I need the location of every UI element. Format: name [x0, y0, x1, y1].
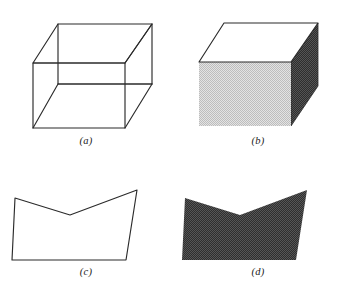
figure-panel-d: (d) — [172, 168, 344, 293]
cube-edge-back-hidden — [58, 24, 152, 84]
panel-a-label: (a) — [0, 135, 172, 147]
figure-panel-b: (b) — [172, 2, 344, 160]
bent-polygon-outline — [12, 190, 137, 260]
panel-d-label: (d) — [172, 266, 344, 278]
bent-polygon-surface — [182, 190, 307, 260]
cube-edge-top-face — [33, 24, 152, 63]
wireframe-cube-drawing — [0, 2, 172, 132]
cube-face-front — [199, 62, 291, 126]
wireframe-bent-polygon-drawing — [0, 168, 172, 268]
panel-b-label: (b) — [172, 135, 344, 147]
cube-edge-front-face — [33, 63, 125, 128]
panel-c-label: (c) — [0, 266, 172, 278]
cube-edge-right-top-diagonal — [125, 24, 152, 63]
shaded-cube-drawing — [172, 2, 344, 132]
figure-panel-c: (c) — [0, 168, 172, 293]
shaded-bent-polygon-drawing — [172, 168, 344, 268]
cube-edge-left-bottom-diagonal — [33, 84, 58, 128]
cube-edge-right-bottom-diagonal — [125, 84, 152, 128]
cube-edges — [33, 24, 152, 128]
figure-panel-a: (a) — [0, 2, 172, 160]
figure-sheet: (a) (b) — [0, 0, 344, 293]
